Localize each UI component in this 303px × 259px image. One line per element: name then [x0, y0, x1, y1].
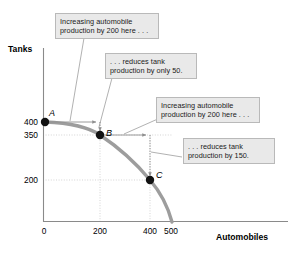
y-tick-label-200: 200	[16, 175, 38, 185]
y-axis-title: Tanks	[8, 44, 32, 54]
annotation-callout-increase-autos-ab: Increasing automobile production by 200 …	[55, 13, 159, 39]
x-tick-label-500: 500	[160, 226, 182, 236]
ppf-chart-figure: Tanks Automobiles 400 350 200 0 200 400 …	[0, 0, 303, 259]
x-axis-title: Automobiles	[216, 232, 268, 242]
annotation-callout-reduce-tanks-150: . . . reduces tank production by 150.	[183, 138, 275, 164]
leader-line-3	[151, 152, 182, 157]
data-point-a[interactable]	[41, 118, 49, 126]
y-tick-label-400: 400	[16, 117, 38, 127]
x-tick-label-400: 400	[139, 226, 161, 236]
leader-line-1	[99, 78, 112, 127]
data-point-b[interactable]	[96, 131, 104, 139]
x-tick-label-0: 0	[33, 226, 55, 236]
data-point-c[interactable]	[146, 176, 154, 184]
leader-line-0	[70, 38, 84, 121]
annotation-callout-reduce-tanks-50: . . . reduces tank production by only 50…	[105, 53, 197, 79]
point-label-a: A	[49, 108, 55, 118]
x-tick-label-200: 200	[89, 226, 111, 236]
annotation-callout-increase-autos-bc: Increasing automobile production by 200 …	[156, 97, 260, 123]
leader-line-2	[124, 118, 160, 134]
point-label-b: B	[106, 128, 112, 138]
point-label-c: C	[156, 170, 163, 180]
y-tick-label-350: 350	[16, 130, 38, 140]
